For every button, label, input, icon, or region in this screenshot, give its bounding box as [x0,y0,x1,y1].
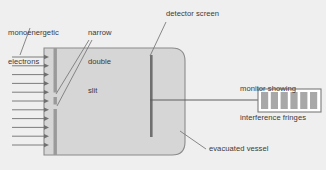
label-detector-screen: detector screen [166,9,219,19]
slit-barrier-segment [54,109,57,155]
label-monitor-line1: monitor showing [240,84,306,94]
label-slit-line2: double [88,57,112,67]
slit-barrier-segment [54,97,57,105]
detector-screen-bar [150,55,153,137]
label-slit-line3: slit [88,86,112,96]
label-monitor-line2: interference fringes [240,113,306,123]
label-evacuated-vessel: evacuated vessel [209,144,268,154]
vessel-outline [44,48,185,155]
label-slit-line1: narrow [88,28,112,38]
diagram-root: monoenergetic electrons narrow double sl… [0,0,326,170]
label-electrons-line1: monoenergetic [8,28,59,38]
fringe-bar [310,92,317,109]
label-monoenergetic-electrons: monoenergetic electrons [8,9,59,86]
evacuated-vessel-shape [44,48,185,155]
label-narrow-double-slit: narrow double slit [88,9,112,115]
label-electrons-line2: electrons [8,57,59,67]
label-monitor-showing-fringes: monitor showing interference fringes [240,65,306,142]
